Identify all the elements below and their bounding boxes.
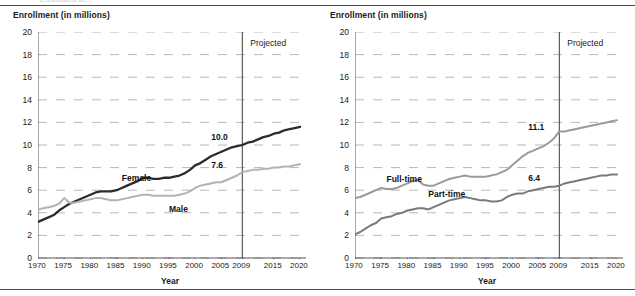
x-axis-title-text: Year [456,276,496,286]
x-tick-label: 2000 [502,262,520,270]
x-tick-label: 2020 [290,262,308,270]
x-tick-label: 1985 [424,262,442,270]
y-tick-label: 2 [6,231,32,240]
y-tick-label: 18 [323,51,349,60]
x-axis-title: Year [0,276,318,286]
y-tick-label: 20 [323,28,349,37]
y-tick-label: 16 [6,73,32,82]
x-axis-title-text: Year [139,276,179,286]
chart-panel-enrollment-by-sex: Enrollment (in millions) Year 0246810121… [0,0,318,289]
x-tick-label: 1985 [107,262,125,270]
bottom-divider [0,289,635,290]
series-line-full-time [355,120,617,198]
y-axis-title: Enrollment (in millions) [13,10,110,20]
x-tick-label: 1970 [28,262,46,270]
y-tick-label: 12 [323,118,349,127]
data-value-label: 10.0 [211,132,228,142]
plot-area [355,32,617,258]
chart-page: Enrollment in... Enrollment (in millions… [0,0,635,296]
y-tick-label: 20 [6,28,32,37]
y-tick-label: 10 [6,141,32,150]
data-value-label: 7.6 [211,160,223,170]
y-tick-label: 6 [323,186,349,195]
plot-area [38,32,300,258]
y-tick-label: 4 [323,209,349,218]
data-value-label: 11.1 [528,122,544,132]
y-tick-label: 6 [6,186,32,195]
y-axis-title: Enrollment (in millions) [330,10,427,20]
x-tick-label: 2009 [549,262,567,270]
x-tick-label: 2009 [232,262,250,270]
series-inline-label: Part-time [428,189,465,199]
x-tick-label: 1980 [80,262,98,270]
x-axis-title: Year [317,276,635,286]
y-tick-label: 12 [6,118,32,127]
x-tick-label: 1995 [476,262,494,270]
y-tick-label: 18 [6,51,32,60]
y-tick-label: 8 [6,164,32,173]
x-tick-label: 2005 [528,262,546,270]
y-tick-label: 14 [6,96,32,105]
projected-label: Projected [250,38,286,48]
x-tick-label: 2015 [581,262,599,270]
data-value-label: 6.4 [528,173,540,183]
series-inline-label: Male [169,204,188,214]
x-tick-label: 1990 [450,262,468,270]
x-tick-label: 1975 [54,262,72,270]
x-tick-label: 2000 [185,262,203,270]
y-tick-label: 14 [323,96,349,105]
chart-svg [355,32,625,259]
y-tick-label: 10 [323,141,349,150]
series-inline-label: Full-time [386,174,421,184]
chart-svg [38,32,308,259]
x-tick-label: 1995 [159,262,177,270]
chart-panel-enrollment-by-attendance: Enrollment (in millions) Year 0246810121… [317,0,635,289]
series-line-male [38,164,300,209]
x-tick-label: 1975 [371,262,389,270]
series-inline-label: Female [122,173,151,183]
y-tick-label: 4 [6,209,32,218]
y-tick-label: 8 [323,164,349,173]
projected-label: Projected [567,38,603,48]
x-tick-label: 1980 [397,262,415,270]
x-tick-label: 2020 [607,262,625,270]
x-tick-label: 2015 [264,262,282,270]
y-tick-label: 16 [323,73,349,82]
y-tick-label: 2 [323,231,349,240]
x-tick-label: 2005 [211,262,229,270]
x-tick-label: 1990 [133,262,151,270]
x-tick-label: 1970 [345,262,363,270]
